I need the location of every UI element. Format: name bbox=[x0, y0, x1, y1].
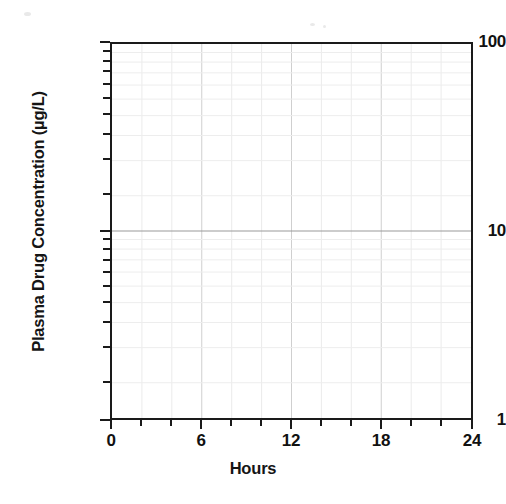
x-tick-12 bbox=[290, 420, 292, 429]
x-tick-label-0: 0 bbox=[81, 431, 141, 451]
y-tick-1 bbox=[100, 419, 110, 421]
y-tick-label-100: 100 bbox=[414, 32, 506, 52]
y-tick-4 bbox=[103, 301, 110, 303]
x-axis-title: Hours bbox=[0, 459, 506, 478]
chart-figure: Plasma Drug Concentration (µg/L) bbox=[0, 0, 506, 504]
y-tick-5 bbox=[103, 285, 110, 287]
x-tick-6 bbox=[200, 420, 202, 429]
x-tick-label-18: 18 bbox=[351, 431, 411, 451]
y-tick-20 bbox=[103, 158, 110, 160]
x-tick-label-12: 12 bbox=[261, 431, 321, 451]
x-tick-22 bbox=[440, 420, 442, 426]
x-tick-2 bbox=[140, 420, 142, 426]
x-tick-label-6: 6 bbox=[171, 431, 231, 451]
x-tick-8 bbox=[230, 420, 232, 426]
y-tick-3 bbox=[103, 321, 110, 323]
y-tick-10 bbox=[100, 230, 110, 232]
x-tick-4 bbox=[170, 420, 172, 426]
y-tick-6 bbox=[103, 271, 110, 273]
y-tick-60 bbox=[103, 83, 110, 85]
scan-artifact bbox=[310, 23, 315, 26]
y-tick-80 bbox=[103, 60, 110, 62]
x-tick-18 bbox=[380, 420, 382, 429]
y-tick-50 bbox=[103, 97, 110, 99]
y-axis-title: Plasma Drug Concentration (µg/L) bbox=[29, 32, 48, 412]
y-tick-1p5 bbox=[103, 381, 110, 383]
x-tick-0 bbox=[110, 420, 112, 429]
y-tick-90 bbox=[103, 50, 110, 52]
y-tick-100 bbox=[100, 41, 110, 43]
x-tick-24 bbox=[471, 420, 473, 429]
y-tick-7 bbox=[103, 259, 110, 261]
y-tick-label-10: 10 bbox=[414, 221, 506, 241]
y-tick-8 bbox=[103, 248, 110, 250]
x-tick-10 bbox=[260, 420, 262, 426]
scan-artifact bbox=[323, 25, 326, 28]
y-tick-2 bbox=[103, 346, 110, 348]
y-tick-70 bbox=[103, 70, 110, 72]
x-tick-label-24: 24 bbox=[442, 431, 502, 451]
x-tick-16 bbox=[350, 420, 352, 426]
y-tick-9 bbox=[103, 238, 110, 240]
y-tick-label-1: 1 bbox=[414, 410, 506, 430]
y-tick-40 bbox=[103, 113, 110, 115]
scan-artifact bbox=[24, 12, 31, 16]
y-tick-15 bbox=[103, 193, 110, 195]
y-tick-30 bbox=[103, 133, 110, 135]
x-tick-14 bbox=[320, 420, 322, 426]
x-tick-20 bbox=[410, 420, 412, 426]
